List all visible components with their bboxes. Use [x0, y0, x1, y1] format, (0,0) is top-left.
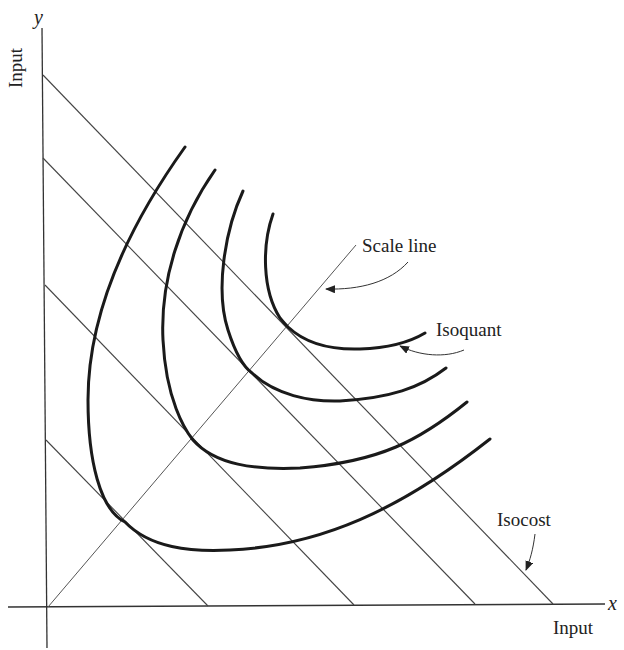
y-axis-label: Input — [5, 47, 26, 88]
x-axis-label: Input — [553, 617, 594, 638]
isoquant-label: Isoquant — [436, 319, 502, 340]
isocost-pointer-icon — [526, 534, 535, 570]
y-axis-variable: y — [32, 6, 43, 29]
y-axis — [42, 28, 47, 648]
x-axis-variable: x — [607, 592, 617, 614]
isocost-label: Isocost — [497, 509, 552, 530]
isoquant-isocost-diagram: y x Input Input Scale line Isoquant Isoc… — [0, 0, 624, 650]
isoquant-pointer-icon — [400, 346, 464, 355]
scale-line — [48, 245, 356, 607]
scale-line-label: Scale line — [362, 235, 436, 256]
x-axis — [8, 604, 605, 607]
isocost-lines — [43, 75, 553, 606]
isoquant-curve-1 — [88, 147, 490, 550]
isoquant-curves — [88, 147, 490, 550]
isoquant-curve-2 — [163, 170, 467, 468]
